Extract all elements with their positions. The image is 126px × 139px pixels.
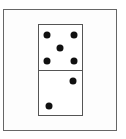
pip-dot	[70, 78, 77, 85]
domino-divider	[38, 70, 83, 71]
pip-dot	[46, 103, 53, 110]
pip-dot	[57, 45, 64, 52]
pip-dot	[44, 58, 51, 65]
pip-dot	[71, 58, 78, 65]
pip-dot	[44, 32, 51, 39]
pip-dot	[71, 32, 78, 39]
